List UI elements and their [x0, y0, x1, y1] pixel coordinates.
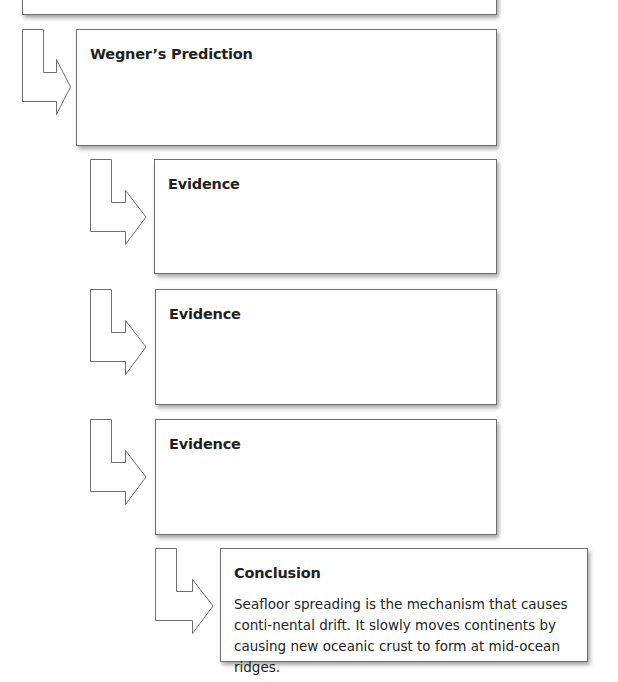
evidence-title-3: Evidence	[169, 436, 241, 452]
bent-arrow-right-icon	[90, 419, 148, 507]
bent-arrow-right-icon	[90, 159, 148, 247]
prediction-box: Wegner’s Prediction	[76, 29, 497, 146]
evidence-title-2: Evidence	[169, 306, 241, 322]
bent-arrow-right-icon	[22, 29, 72, 117]
evidence-box-1: Evidence	[154, 159, 497, 274]
prediction-title: Wegner’s Prediction	[90, 46, 253, 62]
evidence-title-1: Evidence	[168, 176, 240, 192]
top-box	[22, 0, 497, 15]
conclusion-box: Conclusion Seafloor spreading is the mec…	[220, 548, 588, 662]
bent-arrow-right-icon	[155, 548, 215, 636]
conclusion-title: Conclusion	[234, 565, 321, 581]
bent-arrow-right-icon	[90, 289, 148, 377]
conclusion-text: Seafloor spreading is the mechanism that…	[234, 594, 577, 678]
evidence-box-3: Evidence	[155, 419, 497, 535]
evidence-box-2: Evidence	[155, 289, 497, 405]
